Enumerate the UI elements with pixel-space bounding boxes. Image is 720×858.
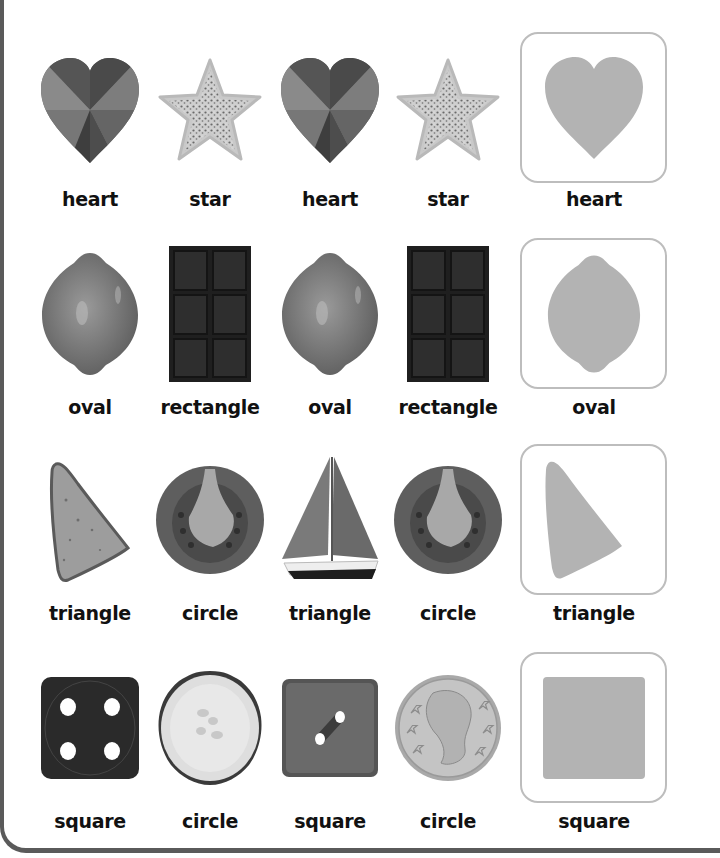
answer-label: heart — [504, 188, 684, 210]
tomato-slice-icon — [140, 440, 280, 600]
answer-item: triangle — [520, 444, 667, 644]
lemon-icon — [20, 234, 160, 394]
square-silhouette-icon — [543, 677, 645, 779]
coin-icon — [378, 648, 518, 808]
answer-label: square — [504, 810, 684, 832]
glitter-star-icon — [378, 30, 518, 190]
answer-item: heart — [520, 30, 667, 230]
answer-box[interactable] — [520, 32, 667, 183]
pattern-item: circle — [378, 652, 518, 852]
gem-heart-icon — [20, 30, 160, 190]
answer-box[interactable] — [520, 652, 667, 803]
die-four-icon — [20, 648, 160, 808]
pattern-item: circle — [378, 444, 518, 644]
pattern-row-2: oval rectangle oval — [0, 238, 695, 438]
pattern-row-3: triangle circle triangle — [0, 444, 695, 644]
answer-label: triangle — [504, 602, 684, 624]
answer-box[interactable] — [520, 444, 667, 595]
pattern-row-1: heart star — [0, 30, 695, 230]
pattern-item: star — [378, 30, 518, 230]
toast-slice-icon — [20, 442, 160, 602]
glitter-star-icon — [140, 30, 280, 190]
chocolate-bar-icon — [140, 234, 280, 394]
answer-label: oval — [504, 396, 684, 418]
answer-item: oval — [520, 238, 667, 438]
triangle-silhouette-icon — [542, 458, 626, 582]
cucumber-slice-icon — [140, 648, 280, 808]
pattern-item: rectangle — [378, 238, 518, 438]
oval-silhouette-icon — [546, 252, 642, 376]
pattern-row-4: square circle square — [0, 652, 695, 852]
heart-silhouette-icon — [543, 55, 645, 161]
chocolate-bar-icon — [378, 234, 518, 394]
tomato-slice-icon — [378, 440, 518, 600]
answer-item: square — [520, 652, 667, 852]
answer-box[interactable] — [520, 238, 667, 389]
